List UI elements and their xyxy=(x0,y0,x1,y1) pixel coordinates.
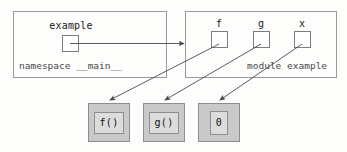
module-caption: module example xyxy=(247,60,327,71)
module-slot-label-f: f xyxy=(196,18,242,29)
module-slot-box-g xyxy=(253,31,270,48)
value-label-g: g() xyxy=(149,112,179,134)
value-box-zero: 0 xyxy=(198,103,240,142)
module-slot-label-x: x xyxy=(279,18,325,29)
diagram-canvas: example namespace __main__ f g x module … xyxy=(0,0,347,152)
value-box-f: f() xyxy=(88,103,130,142)
namespace-caption: namespace __main__ xyxy=(19,60,122,71)
module-slot-box-f xyxy=(211,31,228,48)
namespace-slot-label-example: example xyxy=(40,20,102,31)
value-label-zero: 0 xyxy=(210,111,228,135)
module-slot-label-g: g xyxy=(238,18,284,29)
value-label-f: f() xyxy=(94,112,124,134)
module-slot-box-x xyxy=(294,31,311,48)
value-box-g: g() xyxy=(143,103,185,142)
namespace-slot-box-example xyxy=(62,35,79,52)
